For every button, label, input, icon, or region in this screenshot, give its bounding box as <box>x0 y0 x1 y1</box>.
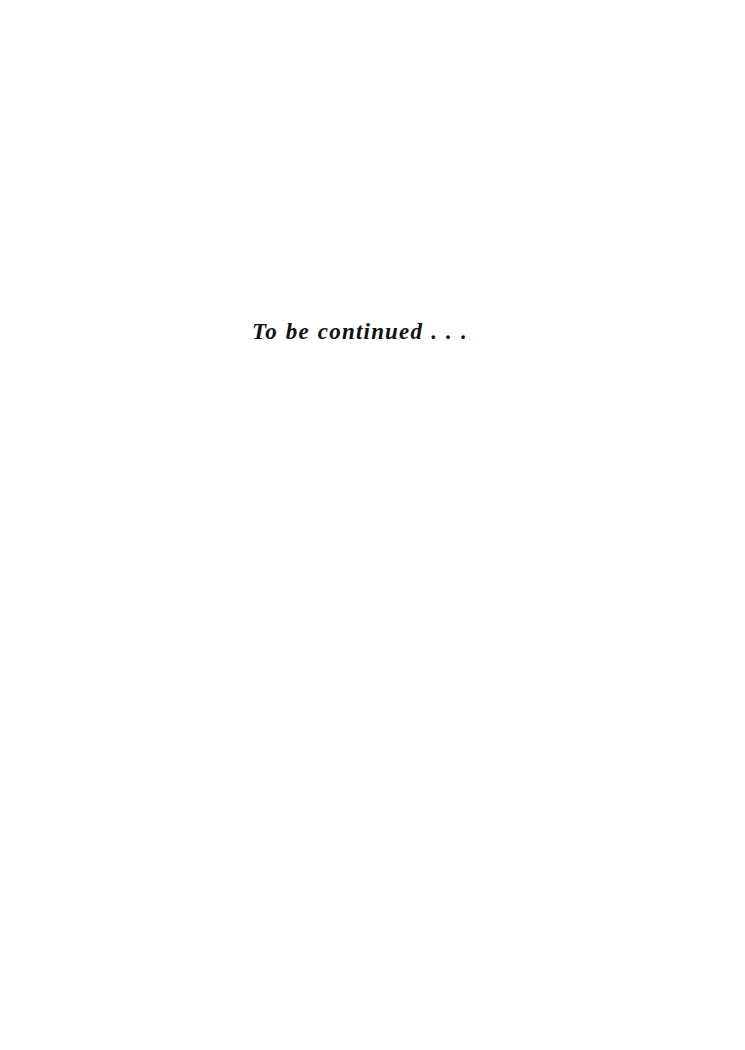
document-page: To be continued . . . <box>0 0 745 1050</box>
to-be-continued-text: To be continued . . . <box>252 318 468 346</box>
